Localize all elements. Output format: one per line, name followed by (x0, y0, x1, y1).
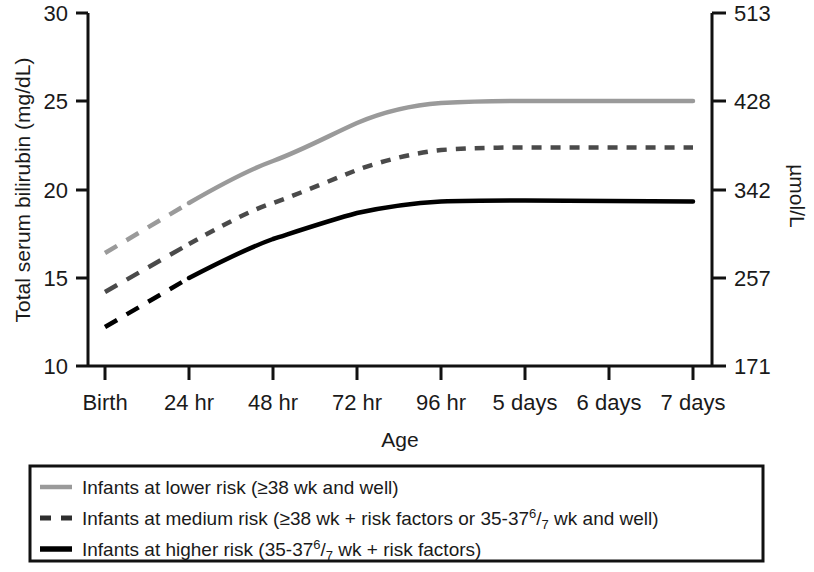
legend-label-medium-risk-post: wk and well) (549, 508, 659, 529)
y-tick-label-left-25: 25 (44, 89, 68, 114)
x-tick-label-72hr: 72 hr (332, 390, 382, 415)
legend-item-lower-risk[interactable]: Infants at lower risk (≥38 wk and well) (40, 477, 399, 498)
x-tick-label-7days: 7 days (661, 390, 726, 415)
series-medium-risk (105, 148, 693, 293)
plot-axes (88, 13, 712, 366)
legend-label-medium-risk-frac-den: 7 (542, 517, 549, 532)
y-axis-right-title: µmol/L (786, 164, 809, 227)
x-axis-title: Age (381, 428, 418, 451)
y-tick-label-right-171: 171 (734, 354, 771, 379)
legend-label-higher-risk-post: wk + risk factors) (333, 539, 481, 560)
legend-item-medium-risk[interactable]: Infants at medium risk (≥38 wk + risk fa… (40, 506, 659, 532)
y-axis-left-title: Total serum bilirubin (mg/dL) (11, 58, 34, 323)
legend-label-higher-risk-frac-num: 6 (313, 537, 320, 552)
x-tick-label-24hr: 24 hr (164, 390, 214, 415)
x-tick-label-48hr: 48 hr (248, 390, 298, 415)
series-higher-risk (105, 201, 693, 328)
legend-label-medium-risk: Infants at medium risk (≥38 wk + risk fa… (82, 506, 659, 532)
y-tick-label-right-428: 428 (734, 89, 771, 114)
legend-label-higher-risk-frac-den: 7 (326, 548, 333, 563)
y-axis-right-ticks: 513 428 342 257 171 (712, 1, 771, 379)
series-higher-risk-dashed-segment (105, 278, 189, 327)
series-lower-risk (105, 101, 693, 253)
y-tick-label-left-30: 30 (44, 1, 68, 26)
x-tick-label-96hr: 96 hr (416, 390, 466, 415)
y-tick-label-left-20: 20 (44, 178, 68, 203)
y-tick-label-right-513: 513 (734, 1, 771, 26)
legend-label-higher-risk: Infants at higher risk (35-376/7 wk + ri… (82, 537, 481, 563)
x-tick-label-5days: 5 days (493, 390, 558, 415)
legend-label-medium-risk-frac-num: 6 (529, 506, 536, 521)
legend-label-medium-risk-pre: Infants at medium risk (≥38 wk + risk fa… (82, 508, 529, 529)
chart-svg: 30 25 20 15 10 513 428 342 257 171 (0, 0, 814, 572)
y-tick-label-left-10: 10 (44, 354, 68, 379)
series-lower-risk-dashed-segment (105, 203, 189, 253)
bilirubin-nomogram-figure: 30 25 20 15 10 513 428 342 257 171 (0, 0, 814, 572)
x-tick-label-6days: 6 days (577, 390, 642, 415)
legend-label-lower-risk: Infants at lower risk (≥38 wk and well) (82, 477, 399, 498)
y-tick-label-right-342: 342 (734, 178, 771, 203)
y-axis-left-ticks: 30 25 20 15 10 (44, 1, 88, 379)
y-tick-label-left-15: 15 (44, 266, 68, 291)
series-higher-risk-solid-segment (189, 201, 693, 279)
legend: Infants at lower risk (≥38 wk and well) … (30, 466, 763, 563)
x-tick-label-birth: Birth (82, 390, 127, 415)
legend-label-higher-risk-pre: Infants at higher risk (35-37 (82, 539, 313, 560)
x-axis-ticks: Birth 24 hr 48 hr 72 hr 96 hr 5 days 6 d… (82, 366, 725, 415)
y-tick-label-right-257: 257 (734, 266, 771, 291)
legend-item-higher-risk[interactable]: Infants at higher risk (35-376/7 wk + ri… (40, 537, 481, 563)
